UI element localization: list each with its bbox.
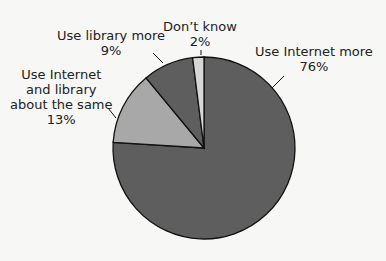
label-value: 76% bbox=[255, 59, 373, 74]
label-text: Use library more bbox=[57, 28, 165, 43]
label-text: and library bbox=[10, 82, 113, 97]
label-text: Use Internet more bbox=[255, 44, 373, 59]
label-library-more: Use library more 9% bbox=[57, 28, 165, 58]
label-internet-more: Use Internet more 76% bbox=[255, 44, 373, 74]
label-same: Use Internet and library about the same … bbox=[10, 67, 113, 127]
label-value: 9% bbox=[57, 43, 165, 58]
label-value: 2% bbox=[163, 34, 237, 49]
label-value: 13% bbox=[10, 112, 113, 127]
label-text: about the same bbox=[10, 97, 113, 112]
pie-chart: Use Internet more 76% Use Internet and l… bbox=[0, 0, 386, 261]
label-text: Don’t know bbox=[163, 19, 237, 34]
label-text: Use Internet bbox=[10, 67, 113, 82]
leader-line bbox=[272, 76, 284, 88]
label-dont-know: Don’t know 2% bbox=[163, 19, 237, 49]
